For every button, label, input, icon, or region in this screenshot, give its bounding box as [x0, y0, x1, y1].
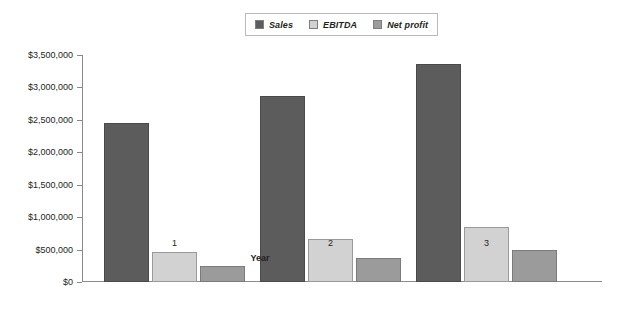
legend-swatch-ebitda — [309, 20, 318, 29]
legend-swatch-net-profit — [373, 20, 382, 29]
bar-sales-year-3 — [416, 64, 461, 282]
legend-swatch-sales — [255, 20, 264, 29]
y-axis-tick-label: $1,500,000 — [28, 180, 73, 190]
y-axis-tick — [77, 282, 82, 283]
bar-net-profit-year-2 — [356, 258, 401, 282]
legend-label-sales: Sales — [269, 20, 293, 30]
x-axis-tick-label: 1 — [172, 238, 177, 248]
legend-entry-net-profit: Net profit — [373, 20, 428, 30]
y-axis-tick — [77, 152, 82, 153]
x-axis-tick-label: 2 — [328, 238, 333, 248]
y-axis-tick — [77, 250, 82, 251]
bar-ebitda-year-1 — [152, 252, 197, 282]
legend-entry-ebitda: EBITDA — [309, 20, 357, 30]
legend-label-net-profit: Net profit — [387, 20, 428, 30]
y-axis-tick — [77, 120, 82, 121]
y-axis-tick-label: $500,000 — [35, 245, 73, 255]
bar-ebitda-year-3 — [464, 227, 509, 282]
y-axis-line — [82, 55, 83, 282]
chart-legend: Sales EBITDA Net profit — [245, 13, 438, 36]
bar-net-profit-year-3 — [512, 250, 557, 282]
y-axis-tick-label: $2,500,000 — [28, 115, 73, 125]
x-axis-title: Year — [250, 253, 269, 263]
legend-label-ebitda: EBITDA — [323, 20, 357, 30]
y-axis-tick-label: $0 — [63, 277, 73, 287]
bar-sales-year-1 — [104, 123, 149, 282]
chart-plot-area: $0$500,000$1,000,000$1,500,000$2,000,000… — [82, 55, 602, 282]
y-axis-tick-label: $2,000,000 — [28, 147, 73, 157]
y-axis-tick-label: $3,500,000 — [28, 50, 73, 60]
y-axis-tick — [77, 185, 82, 186]
x-axis-tick-label: 3 — [484, 238, 489, 248]
y-axis-tick — [77, 55, 82, 56]
y-axis-tick-label: $3,000,000 — [28, 82, 73, 92]
y-axis-tick — [77, 87, 82, 88]
legend-entry-sales: Sales — [255, 20, 293, 30]
y-axis-tick — [77, 217, 82, 218]
bar-net-profit-year-1 — [200, 266, 245, 282]
y-axis-tick-label: $1,000,000 — [28, 212, 73, 222]
